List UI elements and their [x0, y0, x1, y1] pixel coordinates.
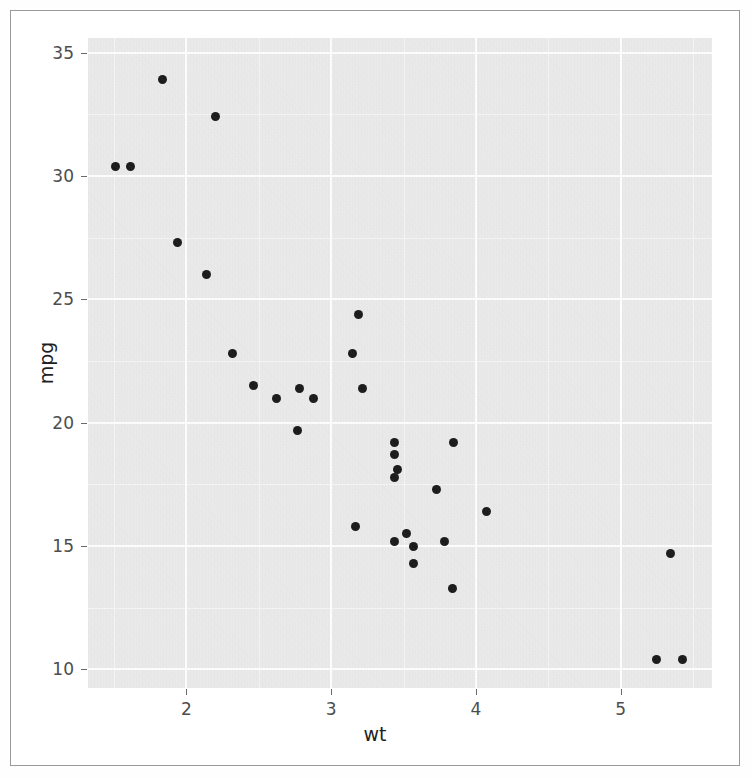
data-point — [390, 537, 399, 546]
data-point — [432, 485, 441, 494]
data-point — [449, 438, 458, 447]
gridline-major-vertical — [620, 38, 622, 688]
x-axis-title: wt — [11, 723, 739, 745]
gridline-minor-horizontal — [88, 608, 712, 609]
data-point — [158, 75, 167, 84]
scatter-plot-figure: 101520253035 2345 mpg wt — [11, 11, 739, 765]
data-point — [351, 522, 360, 531]
data-point — [402, 529, 411, 538]
gridline-minor-horizontal — [88, 484, 712, 485]
x-axis-tick-mark — [621, 689, 622, 695]
data-point — [440, 537, 449, 546]
x-axis-tick-mark — [331, 689, 332, 695]
gridline-major-vertical — [330, 38, 332, 688]
y-axis-tick-mark — [81, 53, 87, 54]
data-point — [293, 426, 302, 435]
data-point — [358, 384, 367, 393]
gridline-minor-horizontal — [88, 361, 712, 362]
data-point — [390, 473, 399, 482]
y-axis-tick-mark — [81, 669, 87, 670]
x-axis-tick-label: 5 — [615, 701, 626, 718]
data-point — [409, 542, 418, 551]
y-axis-tick-label: 30 — [28, 168, 74, 185]
x-axis-tick-label: 3 — [326, 701, 337, 718]
gridline-minor-vertical — [548, 38, 549, 688]
data-point — [126, 162, 135, 171]
data-point — [678, 655, 687, 664]
gridline-minor-vertical — [259, 38, 260, 688]
plot-panel — [88, 38, 712, 688]
figure-page: 101520253035 2345 mpg wt — [0, 0, 752, 778]
data-point — [482, 507, 491, 516]
data-point — [295, 384, 304, 393]
x-axis-tick-mark — [476, 689, 477, 695]
x-axis-tick-mark — [186, 689, 187, 695]
y-axis-tick-mark — [81, 299, 87, 300]
y-axis-tick-label: 20 — [28, 414, 74, 431]
y-axis-tick-label: 35 — [28, 44, 74, 61]
data-point — [272, 394, 281, 403]
gridline-major-vertical — [475, 38, 477, 688]
data-point — [249, 381, 258, 390]
data-point — [111, 162, 120, 171]
gridline-major-horizontal — [88, 668, 712, 670]
data-point — [448, 584, 457, 593]
data-point — [409, 559, 418, 568]
data-point — [173, 238, 182, 247]
gridline-major-horizontal — [88, 298, 712, 300]
gridline-major-horizontal — [88, 422, 712, 424]
data-point — [309, 394, 318, 403]
data-point — [202, 270, 211, 279]
y-axis-tick-label: 15 — [28, 538, 74, 555]
gridline-minor-vertical — [404, 38, 405, 688]
y-axis-tick-label: 25 — [28, 291, 74, 308]
data-point — [211, 112, 220, 121]
data-point — [390, 450, 399, 459]
scan-noise-overlay — [88, 38, 712, 688]
x-axis-tick-label: 2 — [181, 701, 192, 718]
data-point — [390, 438, 399, 447]
y-axis-tick-mark — [81, 546, 87, 547]
y-axis-tick-mark — [81, 423, 87, 424]
gridline-major-vertical — [185, 38, 187, 688]
data-point — [348, 349, 357, 358]
gridline-minor-horizontal — [88, 114, 712, 115]
gridline-minor-vertical — [693, 38, 694, 688]
y-axis-tick-label: 10 — [28, 661, 74, 678]
y-axis-title: mpg — [35, 342, 57, 385]
gridline-minor-horizontal — [88, 238, 712, 239]
gridline-major-horizontal — [88, 545, 712, 547]
data-point — [652, 655, 661, 664]
x-axis-tick-label: 4 — [471, 701, 482, 718]
data-point — [666, 549, 675, 558]
data-point — [354, 310, 363, 319]
data-point — [228, 349, 237, 358]
gridline-major-horizontal — [88, 52, 712, 54]
gridline-minor-vertical — [114, 38, 115, 688]
gridline-major-horizontal — [88, 175, 712, 177]
y-axis-tick-mark — [81, 176, 87, 177]
